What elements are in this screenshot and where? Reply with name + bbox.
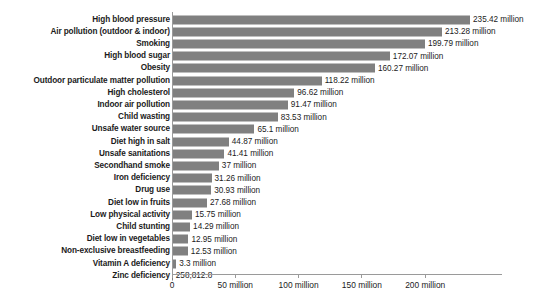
x-axis-tick (298, 274, 299, 278)
value-label: 15.75 million (195, 211, 241, 219)
bar-group: 118.22 million (172, 76, 375, 85)
bar (172, 174, 212, 183)
bar-group: 65.1 million (172, 125, 299, 134)
x-axis-tick (172, 274, 173, 278)
bar-chart: High blood pressure235.42 millionAir pol… (0, 0, 550, 305)
plot-area: High blood pressure235.42 millionAir pol… (0, 0, 550, 305)
bar (172, 64, 375, 73)
value-label: 44.87 million (232, 137, 278, 145)
bar (172, 149, 224, 158)
bar-group: 44.87 million (172, 137, 278, 146)
bar (172, 88, 294, 97)
x-axis-tick-label: 200 million (405, 281, 445, 289)
category-label: Diet high in salt (111, 137, 170, 145)
bar-group: 91.47 million (172, 100, 337, 109)
bar-group: 96.62 million (172, 88, 343, 97)
value-label: 96.62 million (297, 89, 343, 97)
y-axis-line (172, 12, 173, 274)
category-label: Diet low in fruits (108, 198, 170, 206)
bar-row: Child stunting14.29 million (0, 221, 550, 233)
category-label: High cholesterol (107, 89, 170, 97)
bar (172, 210, 192, 219)
bar-row: Unsafe water source65.1 million (0, 123, 550, 135)
bar-row: Zinc deficiency258,812.8 (0, 270, 550, 282)
category-label: Drug use (135, 186, 170, 194)
bar-row: Outdoor particulate matter pollution118.… (0, 75, 550, 87)
bar-group: 27.68 million (172, 198, 256, 207)
value-label: 30.93 million (214, 186, 260, 194)
value-label: 27.68 million (210, 198, 256, 206)
category-label: Secondhand smoke (94, 162, 170, 170)
x-axis-tick-label: 50 million (218, 281, 253, 289)
category-label: Obesity (141, 64, 170, 72)
value-label: 12.53 million (191, 247, 237, 255)
bar-group: 83.53 million (172, 113, 327, 122)
category-label: Non-exclusive breastfeeding (61, 247, 170, 255)
bar-row: Smoking199.79 million (0, 38, 550, 50)
bar (172, 137, 229, 146)
bar-row: Air pollution (outdoor & indoor)213.28 m… (0, 26, 550, 38)
bar (172, 39, 425, 48)
bar-row: Iron deficiency31.26 million (0, 172, 550, 184)
bar-row: High cholesterol96.62 million (0, 87, 550, 99)
category-label: Vitamin A deficiency (93, 259, 170, 267)
bar-group: 37 million (172, 161, 256, 170)
bar (172, 113, 278, 122)
x-axis-tick-label: 150 million (342, 281, 382, 289)
bar (172, 100, 288, 109)
bar-group: 3.3 million (172, 259, 216, 268)
bar (172, 125, 254, 134)
value-label: 258,812.8 (176, 272, 212, 280)
value-label: 3.3 million (179, 259, 216, 267)
bar-row: Unsafe sanitations41.41 million (0, 148, 550, 160)
value-label: 12.95 million (191, 235, 237, 243)
value-label: 213.28 million (445, 28, 496, 36)
category-label: Diet low in vegetables (87, 235, 170, 243)
bar-group: 213.28 million (172, 27, 496, 36)
value-label: 118.22 million (325, 76, 375, 84)
value-label: 172.07 million (393, 52, 444, 60)
bar-row: Drug use30.93 million (0, 184, 550, 196)
category-label: High blood sugar (104, 52, 170, 60)
bar (172, 247, 188, 256)
bar-row: Indoor air pollution91.47 million (0, 99, 550, 111)
category-label: Smoking (136, 40, 170, 48)
bar (172, 186, 211, 195)
value-label: 83.53 million (281, 113, 327, 121)
category-label: Air pollution (outdoor & indoor) (50, 28, 170, 36)
bar-row: Low physical activity15.75 million (0, 209, 550, 221)
bar-row: Non-exclusive breastfeeding12.53 million (0, 245, 550, 257)
category-label: Zinc deficiency (112, 272, 170, 280)
bar-row: Obesity160.27 million (0, 62, 550, 74)
bar (172, 76, 322, 85)
bar-row: Vitamin A deficiency3.3 million (0, 258, 550, 270)
bar-row: Secondhand smoke37 million (0, 160, 550, 172)
bar (172, 52, 390, 61)
bar-row: High blood pressure235.42 million (0, 14, 550, 26)
bar (172, 15, 470, 24)
x-axis-tick (425, 274, 426, 278)
value-label: 160.27 million (378, 64, 429, 72)
bar-row: Diet low in vegetables12.95 million (0, 233, 550, 245)
x-axis-line (172, 274, 502, 275)
bar-group: 14.29 million (172, 222, 239, 231)
category-label: High blood pressure (92, 15, 170, 23)
bar (172, 27, 442, 36)
bar-group: 15.75 million (172, 210, 241, 219)
value-label: 235.42 million (473, 15, 524, 23)
bar-group: 12.53 million (172, 247, 237, 256)
value-label: 41.41 million (227, 150, 273, 158)
category-label: Child stunting (116, 223, 170, 231)
bar-group: 172.07 million (172, 52, 443, 61)
bar-group: 235.42 million (172, 15, 524, 24)
x-axis-tick-label: 0 (170, 281, 175, 289)
value-label: 37 million (222, 162, 257, 170)
bar-row: Child wasting83.53 million (0, 111, 550, 123)
x-axis-tick (235, 274, 236, 278)
value-label: 65.1 million (257, 125, 298, 133)
value-label: 31.26 million (215, 174, 261, 182)
category-label: Child wasting (118, 113, 170, 121)
bar-row: Diet high in salt44.87 million (0, 136, 550, 148)
value-label: 91.47 million (291, 101, 337, 109)
bar-group: 41.41 million (172, 149, 273, 158)
